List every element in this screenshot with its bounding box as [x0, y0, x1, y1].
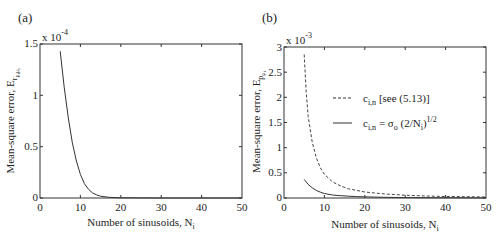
svg-text:50: 50 — [237, 201, 249, 213]
legend-solid-label: ci,n = σo (2/Ni)1/2 — [363, 115, 437, 132]
panel-b-y-axis-label: Mean-square error, Epμi — [250, 70, 267, 173]
panel-a-y-ticks — [40, 44, 242, 198]
panel-b: (b) x 10-3 0 0.5 1 1.5 2 2.5 3 — [250, 10, 492, 233]
panel-b-y-tick-labels: 0 0.5 1 1.5 2 2.5 3 — [268, 41, 282, 203]
svg-text:40: 40 — [196, 201, 208, 213]
svg-text:50: 50 — [481, 201, 493, 213]
panel-a-x-axis-label: Number of sinusoids, Ni — [87, 216, 195, 231]
legend-dashed-label: ci,n [see (5.13)] — [363, 92, 430, 107]
panel-a-error-curve — [60, 51, 242, 198]
svg-text:10: 10 — [319, 201, 331, 213]
panel-a-x-tick-labels: 0 10 20 30 40 50 — [37, 201, 248, 213]
svg-text:0.5: 0.5 — [24, 140, 38, 152]
panel-b-label: (b) — [262, 10, 277, 25]
figure: (a) x 10-4 0 0.5 1 1.5 0 10 20 — [0, 0, 499, 242]
svg-text:2: 2 — [277, 91, 283, 103]
svg-text:1: 1 — [277, 141, 283, 153]
panel-a-y-tick-labels: 0 0.5 1 1.5 — [24, 37, 38, 203]
svg-text:0: 0 — [281, 201, 287, 213]
svg-text:20: 20 — [115, 201, 127, 213]
panel-a-x-ticks — [80, 44, 201, 198]
panel-b-solid-curve — [304, 179, 486, 198]
svg-text:0.5: 0.5 — [268, 166, 282, 178]
svg-text:1.5: 1.5 — [24, 37, 38, 49]
svg-text:0: 0 — [37, 201, 43, 213]
svg-text:30: 30 — [156, 201, 168, 213]
panel-b-scale-factor: x 10-3 — [286, 31, 312, 46]
svg-text:30: 30 — [400, 201, 412, 213]
panel-b-x-tick-labels: 0 10 20 30 40 50 — [281, 201, 492, 213]
panel-a: (a) x 10-4 0 0.5 1 1.5 0 10 20 — [4, 10, 248, 231]
panel-b-legend: ci,n [see (5.13)] ci,n = σo (2/Ni)1/2 — [333, 92, 437, 132]
svg-text:1: 1 — [33, 89, 39, 101]
panel-a-y-axis-label: Mean-square error, Erμiμi — [4, 68, 21, 174]
svg-text:3: 3 — [277, 41, 283, 53]
svg-text:1.5: 1.5 — [268, 116, 282, 128]
panel-a-label: (a) — [18, 10, 32, 25]
panel-a-scale-factor: x 10-4 — [42, 28, 68, 43]
panel-a-axes-box — [40, 44, 242, 198]
svg-text:40: 40 — [440, 201, 452, 213]
svg-text:2.5: 2.5 — [268, 66, 282, 78]
svg-text:10: 10 — [75, 201, 87, 213]
svg-text:20: 20 — [359, 201, 371, 213]
panel-b-x-axis-label: Number of sinusoids, Ni — [331, 218, 439, 233]
